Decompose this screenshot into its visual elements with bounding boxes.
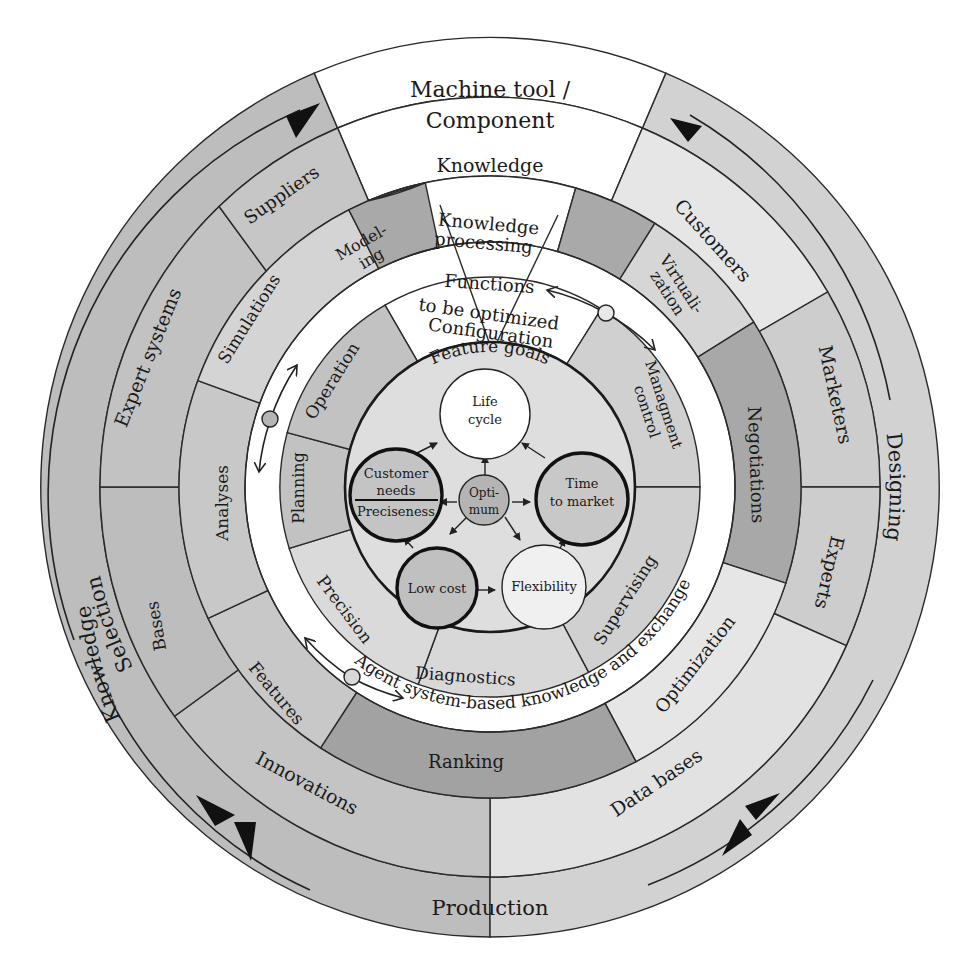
label-customer-needs-1: Customer: [364, 466, 429, 481]
label-life-cycle-2: cycle: [468, 412, 502, 427]
label-time-to-market-2: to market: [550, 494, 615, 509]
band-node-top-right: [598, 305, 614, 321]
label-optimum-2: mum: [469, 503, 500, 517]
label-time-to-market-1: Time: [566, 476, 599, 491]
label-low-cost: Low cost: [408, 581, 467, 596]
label-negotiations: Negotiations: [744, 406, 769, 524]
label-customer-needs-2: needs: [377, 483, 416, 498]
label-ranking: Ranking: [428, 751, 504, 772]
label-component: Component: [426, 108, 555, 133]
label-planning: Planning: [289, 452, 308, 524]
label-knowledge: Knowledge: [436, 154, 543, 176]
label-analyses: Analyses: [212, 465, 232, 542]
label-designing: Designing: [882, 431, 910, 542]
label-flexibility: Flexibility: [511, 579, 577, 594]
label-life-cycle-1: Life: [472, 394, 498, 409]
band-node-left: [262, 411, 278, 427]
goal-optimum: [459, 475, 509, 525]
band-node-bottom-left: [344, 669, 360, 685]
label-production: Production: [432, 896, 549, 920]
agent-system-circular-diagram: Machine tool / Component Designing Selec…: [0, 0, 978, 962]
label-machine-tool: Machine tool /: [410, 77, 571, 102]
label-optimum-1: Opti-: [469, 486, 499, 500]
label-preciseness: Preciseness: [357, 504, 435, 519]
